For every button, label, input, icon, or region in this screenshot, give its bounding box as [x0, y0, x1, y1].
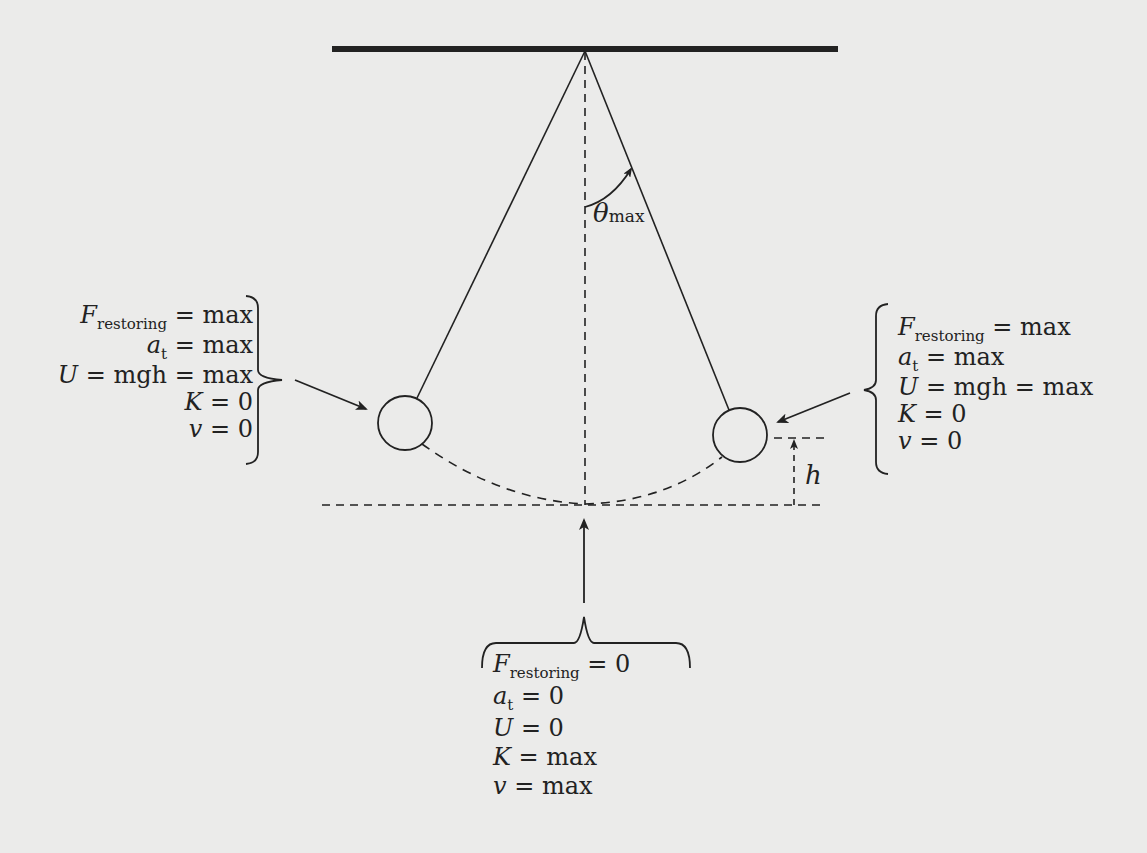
- bottom-eq-potential: U = 0: [493, 714, 693, 743]
- left-eq-accel: at = max: [40, 332, 253, 362]
- bottom-eq-accel: at = 0: [493, 682, 693, 714]
- theta-symbol: θ: [593, 198, 609, 228]
- bottom-eq-velocity: v = max: [493, 772, 693, 801]
- right-eq-potential: U = mgh = max: [898, 374, 1138, 401]
- left-eq-kinetic: K = 0: [40, 389, 253, 416]
- right-eq-velocity: v = 0: [898, 428, 1138, 455]
- left-bob: [378, 396, 432, 450]
- left-eq-velocity: v = 0: [40, 416, 253, 443]
- left-pointer-arrow: [295, 380, 366, 409]
- height-label: h: [805, 460, 822, 490]
- left-eq-force: Frestoring = max: [40, 302, 253, 332]
- bottom-eq-force: Frestoring = 0: [493, 650, 693, 682]
- theta-max-label: θmax: [593, 198, 645, 228]
- right-brace: [864, 304, 888, 474]
- right-string: [585, 51, 729, 410]
- pendulum-diagram: θmax h Frestoring = max at = max U = mgh…: [0, 0, 1147, 853]
- theta-subscript: max: [609, 206, 645, 226]
- right-eq-force: Frestoring = max: [898, 314, 1138, 344]
- right-pointer-arrow: [778, 393, 850, 422]
- right-bob: [713, 408, 767, 462]
- right-extreme-equations: Frestoring = max at = max U = mgh = max …: [898, 314, 1138, 455]
- left-eq-potential: U = mgh = max: [40, 362, 253, 389]
- bottom-eq-kinetic: K = max: [493, 743, 693, 772]
- bottom-position-equations: Frestoring = 0 at = 0 U = 0 K = max v = …: [493, 650, 693, 801]
- left-extreme-equations: Frestoring = max at = max U = mgh = max …: [40, 302, 253, 443]
- right-eq-accel: at = max: [898, 344, 1138, 374]
- swing-path-arc: [422, 444, 722, 504]
- left-string: [417, 51, 585, 398]
- right-eq-kinetic: K = 0: [898, 401, 1138, 428]
